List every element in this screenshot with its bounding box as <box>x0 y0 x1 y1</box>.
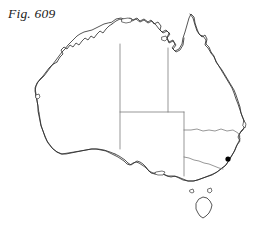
markers-group <box>225 156 230 161</box>
figure-panel: Fig. 609 <box>0 0 255 227</box>
island-melville <box>122 18 132 23</box>
island-tasmania <box>196 197 212 218</box>
island-kangaroo <box>155 171 165 175</box>
mainland-group <box>35 14 245 181</box>
city-dot-marker <box>225 156 230 161</box>
mainland-outline <box>35 14 245 181</box>
island-king <box>190 189 194 193</box>
island-flinders <box>208 188 212 193</box>
australia-map <box>0 0 255 227</box>
